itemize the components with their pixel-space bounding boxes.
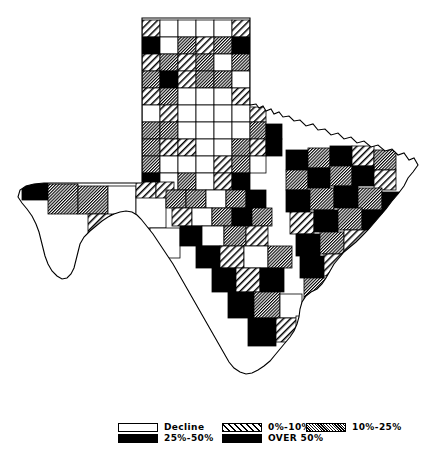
county-etx-i2	[308, 168, 330, 188]
county-panhandle-r2c1	[142, 37, 160, 54]
map-svg	[0, 0, 448, 400]
county-nw-r6c7	[250, 107, 266, 122]
county-etx-i5	[374, 170, 396, 190]
county-nw-r6c5	[214, 105, 232, 122]
county-panhandle-r3c3	[178, 54, 196, 71]
county-nc-r10c6	[232, 173, 250, 190]
county-panhandle-r1c5	[214, 20, 232, 37]
county-stx-f2	[254, 292, 280, 318]
county-panhandle-r2c4	[196, 37, 214, 54]
county-ctx-c1	[180, 226, 202, 246]
county-stx-d3	[244, 246, 268, 268]
county-etx-h5	[374, 150, 396, 170]
county-panhandle-r5c4	[196, 88, 214, 105]
county-panhandle-r5c3	[178, 88, 196, 105]
county-nc-r8c1	[142, 139, 160, 156]
county-etx-h4	[352, 146, 374, 166]
county-ctx-a1	[166, 190, 186, 208]
legend-item-decline: Decline	[118, 422, 214, 432]
legend-swatch-decline	[118, 423, 158, 432]
legend-swatch-25-50	[118, 434, 158, 443]
county-nc-r10c3	[178, 173, 196, 190]
county-panhandle-r5c2	[160, 88, 178, 105]
county-nc-r10c5	[214, 173, 232, 190]
county-nw-r7c2	[160, 122, 178, 139]
county-ctx-b2	[192, 208, 212, 226]
county-nc-r8c7	[250, 139, 266, 156]
county-ctx-a5	[246, 190, 266, 208]
county-stx-g1	[248, 318, 276, 346]
county-nc-r10c4	[196, 173, 214, 190]
county-stx-d2	[220, 246, 244, 268]
legend-label-0-10: 0%-10%	[268, 422, 311, 432]
legend-group-3: 10%-25%	[306, 422, 402, 432]
county-etx-j2	[310, 188, 334, 210]
county-etx-i1	[286, 170, 308, 190]
county-stx-e2	[236, 268, 260, 292]
county-panhandle-r5c5	[214, 88, 232, 105]
county-nc-r9c7	[250, 156, 266, 173]
county-etx-j4	[358, 188, 382, 210]
county-nc-r8c3	[178, 139, 196, 156]
county-ctx-a2	[186, 190, 206, 208]
county-panhandle-r3c4	[196, 54, 214, 71]
county-etx-k2	[314, 210, 338, 232]
county-panhandle-r2c5	[214, 37, 232, 54]
county-nc-r8c6	[232, 139, 250, 156]
county-stx-f3	[280, 294, 302, 318]
figure-page: Decline 25%-50% 0%-10% OVER 50% 10%-25%	[0, 0, 448, 467]
county-nw-r7c6	[232, 122, 250, 139]
county-etx-j3	[334, 186, 358, 208]
county-etx-h3	[330, 146, 352, 166]
county-ctx-c4	[246, 226, 268, 246]
county-ctx-b4	[232, 208, 252, 226]
county-nw-r7c5	[214, 122, 232, 139]
county-etx-j1	[286, 190, 310, 212]
county-nc-r8c2	[160, 139, 178, 156]
county-nc-r9c1	[142, 156, 160, 173]
county-panhandle-r3c5	[214, 54, 232, 71]
county-stx-d4	[268, 246, 292, 268]
legend-label-over-50: OVER 50%	[268, 433, 323, 443]
map-legend: Decline 25%-50% 0%-10% OVER 50% 10%-25%	[0, 404, 448, 467]
county-nc-r9c5	[214, 156, 232, 173]
county-panhandle-r4c6	[232, 71, 250, 88]
county-nc-r9c2	[160, 156, 178, 173]
legend-item-over-50: OVER 50%	[222, 433, 323, 443]
county-nc-r8c5	[214, 139, 232, 156]
county-stx-d1	[196, 246, 220, 268]
county-gulf-m1	[300, 256, 324, 278]
county-wtx-hudspeth	[48, 184, 78, 214]
county-nc-r8c8	[266, 139, 282, 156]
county-panhandle-r2c2	[160, 37, 178, 54]
county-panhandle-r2c3	[178, 37, 196, 54]
county-etx-k3	[338, 208, 362, 230]
county-etx-l2	[320, 232, 344, 254]
county-panhandle-r2c6	[232, 37, 250, 54]
county-ctx-c2	[202, 226, 224, 246]
legend-label-decline: Decline	[164, 422, 204, 432]
county-stx-f1	[228, 292, 254, 318]
county-nw-r7c4	[196, 122, 214, 139]
county-panhandle-r1c4	[196, 20, 214, 37]
legend-label-10-25: 10%-25%	[352, 422, 402, 432]
county-panhandle-r1c6	[232, 20, 250, 37]
county-nc-r9c4	[196, 156, 214, 173]
county-panhandle-r4c4	[196, 71, 214, 88]
county-nw-r6c6	[232, 105, 250, 122]
county-panhandle-r5c1	[142, 88, 160, 105]
county-nc-r8c4	[196, 139, 214, 156]
county-wtx-ward	[136, 182, 156, 198]
county-panhandle-r4c5	[214, 71, 232, 88]
county-panhandle-r3c6	[232, 54, 250, 71]
county-ctx-b3	[212, 208, 232, 226]
county-panhandle-r1c3	[178, 20, 196, 37]
county-etx-h2	[308, 148, 330, 168]
county-etx-i3	[330, 166, 352, 186]
county-nc-r9c3	[178, 156, 196, 173]
legend-item-25-50: 25%-50%	[118, 433, 214, 443]
county-nw-r7c3	[178, 122, 196, 139]
county-ctx-a3	[206, 190, 226, 208]
county-ctx-a4	[226, 190, 246, 208]
county-panhandle-r4c3	[178, 71, 196, 88]
